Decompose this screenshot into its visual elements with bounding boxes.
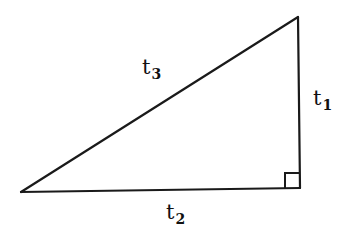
right-angle-marker [285,173,300,189]
label-t1-base: t [313,86,321,110]
hypotenuse-t3 [21,17,298,192]
label-t1-subscript: 1 [322,97,332,113]
label-t2: t2 [166,202,185,223]
label-t3-subscript: 3 [151,66,161,82]
label-t2-base: t [166,200,174,224]
label-t3: t3 [142,57,161,78]
vertical-leg-t1 [298,17,300,188]
label-t3-base: t [142,55,150,79]
label-t2-subscript: 2 [175,211,185,227]
label-t1: t1 [313,88,332,109]
horizontal-leg-t2 [21,188,300,192]
